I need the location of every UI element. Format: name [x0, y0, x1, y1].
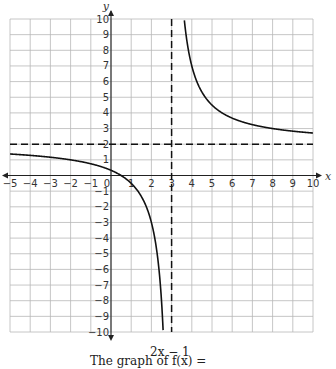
- y-tick-label: −1: [94, 186, 109, 197]
- caption: The graph of f(x) = 2x − 1: [90, 354, 206, 368]
- y-tick-label: −10: [88, 327, 109, 338]
- x-tick-label: −5: [3, 178, 18, 189]
- y-tick-label: −2: [94, 201, 109, 212]
- curve-right-branch: [184, 20, 313, 133]
- x-tick-label: 7: [249, 178, 255, 189]
- x-tick-label: 9: [290, 178, 296, 189]
- y-tick-label: 8: [103, 45, 109, 56]
- y-tick-label: −3: [94, 217, 109, 228]
- x-tick-label: 10: [307, 178, 320, 189]
- y-tick-label: 4: [103, 107, 109, 118]
- y-tick-label: 6: [103, 76, 109, 87]
- y-tick-label: 3: [103, 123, 109, 134]
- y-tick-label: 5: [103, 92, 109, 103]
- y-tick-label: 9: [103, 29, 109, 40]
- x-tick-label: 8: [269, 178, 275, 189]
- x-tick-label: −4: [23, 178, 38, 189]
- x-tick-label: 6: [229, 178, 235, 189]
- y-tick-label: −7: [94, 280, 109, 291]
- y-tick-label: −4: [94, 233, 109, 244]
- y-tick-label: −8: [94, 295, 109, 306]
- x-tick-label: 2: [148, 178, 154, 189]
- y-tick-label: −5: [94, 248, 109, 259]
- y-tick-label: −9: [94, 311, 109, 322]
- y-tick-label: 7: [103, 60, 109, 71]
- x-tick-label: −2: [63, 178, 78, 189]
- caption-numerator: 2x − 1: [150, 345, 190, 359]
- x-axis-label: x: [325, 170, 332, 183]
- y-tick-label: 10: [96, 14, 109, 25]
- y-tick-label: 1: [103, 154, 109, 165]
- y-tick-label: −6: [94, 264, 109, 275]
- y-axis-label: y: [102, 0, 110, 13]
- function-graph: −5−4−3−2−1012345678910−10−9−8−7−6−5−4−3−…: [0, 0, 336, 350]
- x-tick-label: −3: [43, 178, 58, 189]
- x-tick-label: 5: [209, 178, 215, 189]
- x-tick-label: 4: [189, 178, 195, 189]
